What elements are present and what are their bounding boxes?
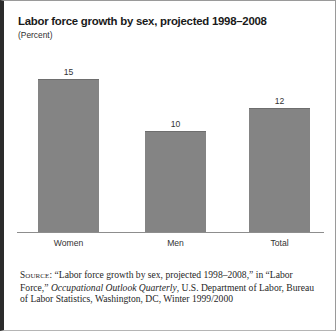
chart-figure: Labor force growth by sex, projected 199… — [0, 0, 336, 331]
bar-value-label: 15 — [38, 67, 99, 77]
bar-total — [249, 108, 310, 233]
tick-label-total: Total — [249, 237, 310, 249]
chart-subtitle: (Percent) — [18, 30, 328, 41]
bar-men — [145, 131, 206, 233]
page-title: Labor force growth by sex, projected 199… — [18, 15, 328, 28]
tick-label-men: Men — [145, 237, 206, 249]
chart-header: Labor force growth by sex, projected 199… — [18, 15, 328, 41]
x-axis-line — [17, 232, 324, 233]
bar-group-women: 15 — [38, 61, 99, 233]
bar-group-men: 10 — [145, 61, 206, 233]
plot-area: 15 10 12 — [17, 61, 325, 233]
source-label: Source: — [20, 270, 52, 280]
bar-group-total: 12 — [249, 61, 310, 233]
bar-value-label: 12 — [249, 96, 310, 106]
bar-value-label: 10 — [145, 119, 206, 129]
source-note: Source: “Labor force growth by sex, proj… — [20, 269, 320, 305]
bar-women — [38, 79, 99, 233]
tick-label-women: Women — [38, 237, 99, 249]
source-journal-title: Occupational Outlook Quarterly — [51, 282, 177, 293]
x-axis-tick-labels: Women Men Total — [17, 237, 325, 251]
